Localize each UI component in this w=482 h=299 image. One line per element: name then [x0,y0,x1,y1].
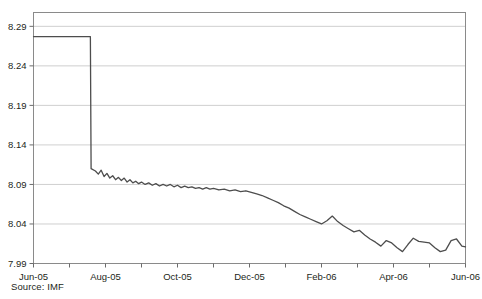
x-axis-ticks [34,264,466,268]
plot-border [34,13,466,264]
x-tick-label: Feb-06 [306,271,336,282]
plot-frame [34,13,466,264]
exchange-rate-line-chart: 8.298.248.198.148.098.047.99 Jun-05Aug-0… [0,0,482,299]
source-note: Source: IMF [11,281,64,292]
y-axis-ticks [30,26,34,263]
x-tick-label: Jun-06 [451,271,480,282]
y-axis-tick-labels: 8.298.248.198.148.098.047.99 [8,21,27,269]
y-tick-label: 8.14 [8,139,27,150]
y-tick-label: 7.99 [8,258,27,269]
series-line-cny-per-usd [34,37,466,252]
y-tick-label: 8.24 [8,60,27,71]
y-tick-label: 8.19 [8,100,27,111]
x-tick-label: Jun-05 [19,271,48,282]
x-axis-tick-labels: Jun-05Aug-05Oct-05Dec-05Feb-06Apr-06Jun-… [19,271,480,282]
y-tick-label: 8.29 [8,21,27,32]
x-tick-label: Aug-05 [90,271,121,282]
data-series-line [34,37,466,252]
y-tick-label: 8.04 [8,218,27,229]
x-tick-label: Oct-05 [163,271,192,282]
gridlines [34,26,466,263]
y-tick-label: 8.09 [8,179,27,190]
x-tick-label: Apr-06 [379,271,408,282]
x-tick-label: Dec-05 [234,271,265,282]
chart-canvas: 8.298.248.198.148.098.047.99 Jun-05Aug-0… [0,0,482,299]
